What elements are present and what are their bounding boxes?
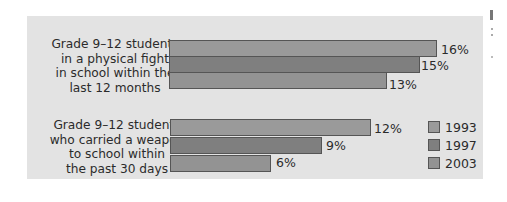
bar-fight-2003 bbox=[169, 72, 387, 89]
edge-artifact bbox=[490, 10, 498, 70]
label-line: Grade 9–12 students bbox=[40, 37, 190, 52]
legend-swatch-2003 bbox=[428, 157, 440, 169]
value-label-fight-2003: 13% bbox=[389, 76, 417, 93]
value-label-weapon-1993: 12% bbox=[374, 120, 402, 137]
legend-swatch-1993 bbox=[428, 121, 440, 133]
label-line: in school within the bbox=[40, 66, 190, 81]
legend-label: 1993 bbox=[445, 120, 477, 135]
legend: 1993 1997 2003 bbox=[428, 118, 477, 172]
bar-fight-1997 bbox=[169, 56, 420, 73]
bar-weapon-1993 bbox=[170, 119, 371, 136]
legend-swatch-1997 bbox=[428, 139, 440, 151]
bar-fight-1993 bbox=[169, 40, 437, 57]
legend-item-1997: 1997 bbox=[428, 136, 477, 154]
bar-weapon-1997 bbox=[170, 137, 322, 154]
category-label-physical-fight: Grade 9–12 students in a physical fight … bbox=[40, 37, 190, 95]
label-line: in a physical fight bbox=[40, 52, 190, 67]
legend-item-1993: 1993 bbox=[428, 118, 477, 136]
value-label-weapon-1997: 9% bbox=[326, 137, 346, 154]
value-label-fight-1997: 15% bbox=[421, 57, 449, 74]
legend-item-2003: 2003 bbox=[428, 154, 477, 172]
label-line: last 12 months bbox=[40, 81, 190, 96]
value-label-weapon-2003: 6% bbox=[276, 154, 296, 171]
bar-weapon-2003 bbox=[170, 155, 271, 172]
value-label-fight-1993: 16% bbox=[441, 41, 469, 58]
legend-label: 1997 bbox=[445, 138, 477, 153]
legend-label: 2003 bbox=[445, 156, 477, 171]
